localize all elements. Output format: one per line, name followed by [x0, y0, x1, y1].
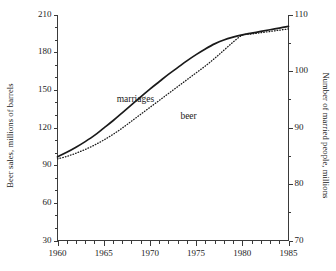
y-tick-label-left: 90	[12, 159, 52, 169]
x-tick-label: 1970	[130, 248, 170, 258]
chart-figure: Beer sales, millions of barrels Number o…	[0, 0, 336, 271]
x-tick-label: 1985	[269, 248, 309, 258]
y-tick-label-left: 150	[12, 84, 52, 94]
y-tick-label-left: 30	[12, 235, 52, 245]
y-tick-label-left: 180	[12, 46, 52, 56]
x-tick-label: 1980	[222, 248, 262, 258]
y-tick-label-right: 80	[295, 178, 335, 188]
series-annotation-marriages: marriages	[117, 94, 154, 104]
y-tick-label-right: 100	[295, 65, 335, 75]
series-line-beer	[58, 29, 289, 159]
y-tick-label-right: 90	[295, 122, 335, 132]
y-tick-label-left: 210	[12, 9, 52, 19]
series-group	[58, 26, 289, 159]
series-line-marriages	[58, 26, 289, 157]
series-annotation-beer: beer	[180, 111, 196, 121]
y-tick-label-left: 120	[12, 122, 52, 132]
y-axis-left-title: Beer sales, millions of barrels	[2, 0, 18, 271]
y-tick-label-right: 110	[295, 9, 335, 19]
axes-group	[54, 15, 293, 246]
y-tick-label-right: 70	[295, 235, 335, 245]
plot-canvas	[0, 0, 336, 271]
x-tick-label: 1975	[176, 248, 216, 258]
y-tick-label-left: 60	[12, 197, 52, 207]
x-tick-label: 1965	[84, 248, 124, 258]
y-axis-right-title: Number of married people, millions	[318, 0, 334, 271]
x-tick-label: 1960	[38, 248, 78, 258]
